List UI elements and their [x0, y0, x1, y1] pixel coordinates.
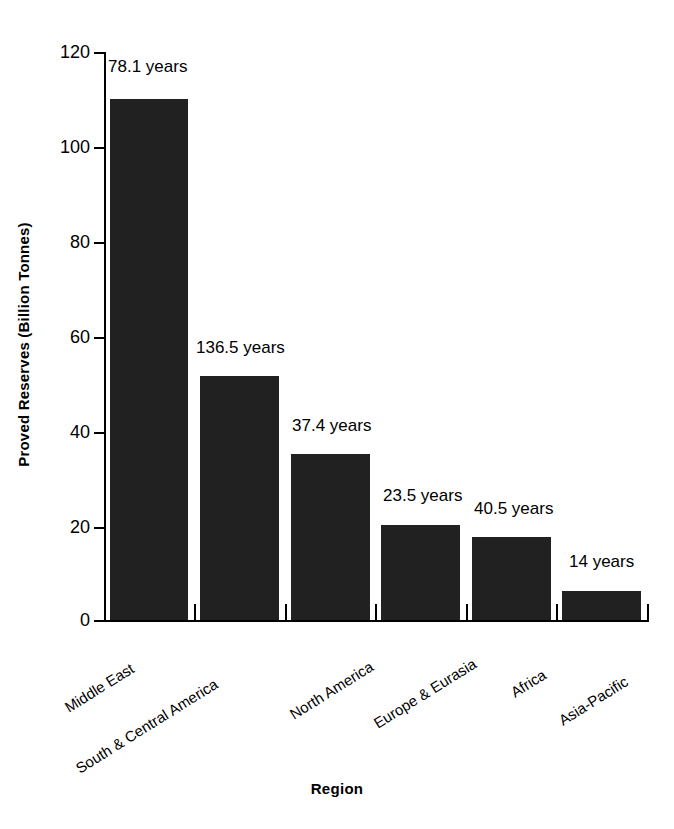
- y-tick-label-20: 20: [38, 518, 90, 536]
- bar-annotation-europe-eurasia: 23.5 years: [383, 487, 462, 504]
- y-tick-label-40: 40: [38, 423, 90, 441]
- x-tick-4: [466, 604, 468, 622]
- x-tick-3: [375, 604, 377, 622]
- bar-annotation-middle-east: 78.1 years: [108, 58, 187, 75]
- y-tick-label-120: 120: [38, 43, 90, 61]
- y-tick-label-100: 100: [38, 138, 90, 156]
- x-category-label-africa: Africa: [508, 667, 548, 700]
- x-tick-5: [556, 604, 558, 622]
- bar-africa: [472, 537, 551, 620]
- bar-chart: Proved Reserves (Billion Tonnes) 120 100…: [0, 0, 674, 829]
- x-category-label-middle-east: Middle East: [62, 660, 136, 714]
- x-category-label-asia-pacific: Asia-Pacific: [556, 673, 630, 727]
- x-tick-2: [285, 604, 287, 622]
- x-category-label-north-america: North America: [287, 659, 376, 722]
- y-tick-20: [94, 527, 105, 529]
- y-tick-label-0: 0: [38, 611, 90, 629]
- x-tick-6: [647, 604, 649, 622]
- bar-asia-pacific: [562, 591, 641, 620]
- y-tick-40: [94, 432, 105, 434]
- y-tick-label-80: 80: [38, 233, 90, 251]
- y-tick-100: [94, 147, 105, 149]
- bar-europe-eurasia: [381, 525, 460, 620]
- bar-annotation-africa: 40.5 years: [474, 500, 553, 517]
- x-tick-0: [104, 604, 106, 622]
- y-tick-label-60: 60: [38, 328, 90, 346]
- bar-annotation-south-central-america: 136.5 years: [196, 339, 285, 356]
- y-tick-120: [94, 52, 105, 54]
- bar-south-central-america: [200, 376, 279, 620]
- y-axis-title: Proved Reserves (Billion Tonnes): [15, 190, 32, 500]
- y-tick-80: [94, 242, 105, 244]
- bar-annotation-north-america: 37.4 years: [292, 417, 371, 434]
- y-tick-60: [94, 337, 105, 339]
- x-category-label-europe-eurasia: Europe & Eurasia: [371, 656, 479, 731]
- bar-north-america: [291, 454, 370, 620]
- bar-annotation-asia-pacific: 14 years: [569, 553, 634, 570]
- x-axis-title: Region: [0, 780, 674, 797]
- bar-middle-east: [110, 99, 188, 620]
- x-tick-1: [194, 604, 196, 622]
